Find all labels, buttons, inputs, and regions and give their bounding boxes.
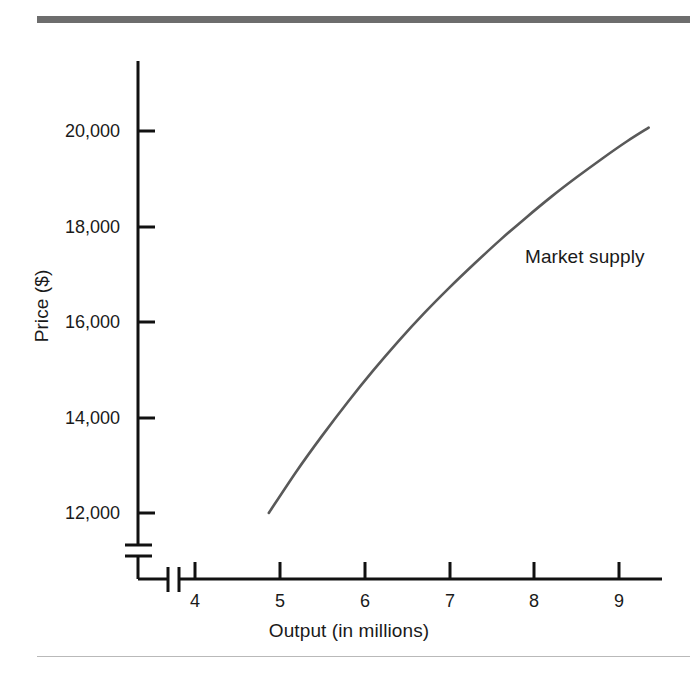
y-axis-title: Price ($): [31, 248, 53, 364]
market-supply-curve: [269, 128, 649, 513]
y-tick-label-12000: 12,000: [34, 503, 120, 524]
market-supply-label: Market supply: [525, 246, 645, 268]
x-tick-label-7: 7: [430, 591, 470, 612]
x-tick-label-4: 4: [175, 591, 215, 612]
x-tick-label-6: 6: [345, 591, 385, 612]
x-tick-label-8: 8: [514, 591, 554, 612]
x-axis-title: Output (in millions): [0, 620, 698, 642]
y-tick-label-14000: 14,000: [34, 408, 120, 429]
chart-figure: 12,000 14,000 16,000 18,000 20,000 4 5 6…: [0, 0, 698, 674]
x-tick-label-9: 9: [599, 591, 639, 612]
y-tick-label-18000: 18,000: [34, 217, 120, 238]
supply-curve-plot: [0, 0, 698, 674]
x-tick-label-5: 5: [260, 591, 300, 612]
y-tick-label-20000: 20,000: [34, 121, 120, 142]
